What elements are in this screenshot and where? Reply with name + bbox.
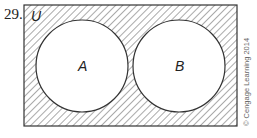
set-b-label: B xyxy=(175,58,184,74)
copyright-text: © Cengage Learning 2014 xyxy=(242,38,251,126)
set-a-label: A xyxy=(77,58,87,74)
universe-label: U xyxy=(31,8,42,24)
venn-diagram: U A B © Cengage Learning 2014 xyxy=(0,0,257,138)
